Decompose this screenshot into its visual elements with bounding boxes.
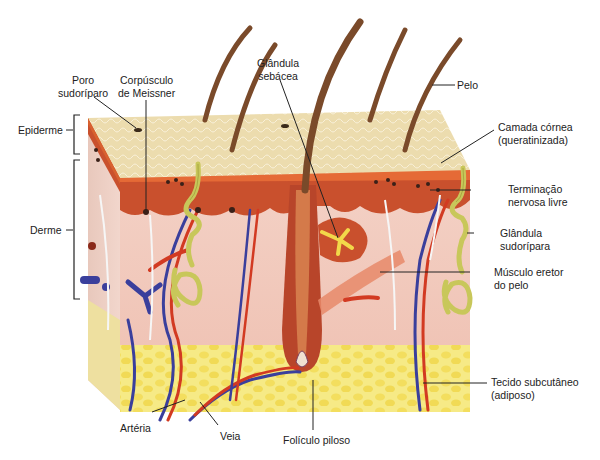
label-line: de Meissner bbox=[118, 87, 175, 100]
label-line: nervosa livre bbox=[508, 196, 568, 209]
label-line: (adiposo) bbox=[491, 389, 579, 402]
label-arteria: Artéria bbox=[120, 422, 151, 435]
label-line: do pelo bbox=[494, 279, 563, 292]
label-line: sudorípara bbox=[500, 240, 550, 253]
sweat-pore bbox=[134, 128, 142, 132]
label-line: Terminação bbox=[508, 183, 568, 196]
layer-brackets bbox=[74, 115, 80, 299]
label-tecido-subcutaneo: Tecido subcutâneo (adiposo) bbox=[491, 376, 579, 401]
label-line: sebácea bbox=[257, 70, 299, 83]
label-line: Camada córnea bbox=[498, 121, 573, 134]
label-line: Tecido subcutâneo bbox=[491, 376, 579, 389]
label-line: (queratinizada) bbox=[498, 134, 573, 147]
label-line: Glândula bbox=[257, 57, 299, 70]
label-line: Músculo eretor bbox=[494, 266, 563, 279]
label-glandula-sebacea: Glândula sebácea bbox=[257, 57, 299, 82]
label-terminacao-nervosa: Terminação nervosa livre bbox=[508, 183, 568, 208]
label-foliculo-piloso: Folículo piloso bbox=[283, 434, 350, 447]
label-pelo: Pelo bbox=[457, 79, 478, 92]
label-camada-cornea: Camada córnea (queratinizada) bbox=[498, 121, 573, 146]
label-line: sudoríparo bbox=[58, 87, 108, 100]
label-epiderme: Epiderme bbox=[18, 124, 63, 137]
label-derme: Derme bbox=[30, 224, 62, 237]
label-poro-sudoriparo: Poro sudoríparo bbox=[58, 74, 108, 99]
skin-diagram: Poro sudoríparo Corpúsculo de Meissner G… bbox=[0, 0, 600, 460]
label-glandula-sudoripara: Glândula sudorípara bbox=[500, 227, 550, 252]
label-line: Corpúsculo bbox=[118, 74, 175, 87]
label-line: Poro bbox=[58, 74, 108, 87]
label-corpusculo-meissner: Corpúsculo de Meissner bbox=[118, 74, 175, 99]
label-musculo-eretor: Músculo eretor do pelo bbox=[494, 266, 563, 291]
label-line: Glândula bbox=[500, 227, 550, 240]
label-veia: Veia bbox=[220, 430, 240, 443]
